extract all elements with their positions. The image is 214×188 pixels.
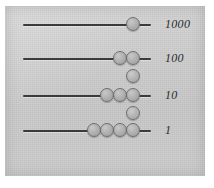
bead[interactable]	[126, 123, 140, 137]
diagram-panel: 1000 100 10 1	[5, 6, 205, 176]
bead[interactable]	[100, 123, 114, 137]
rod-group-1: 1	[5, 6, 205, 176]
rod-label-1: 1	[165, 124, 171, 136]
bead[interactable]	[87, 123, 101, 137]
abacus-figure: 1000 100 10 1	[0, 0, 214, 188]
bead[interactable]	[113, 123, 127, 137]
